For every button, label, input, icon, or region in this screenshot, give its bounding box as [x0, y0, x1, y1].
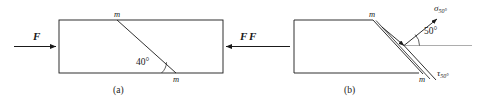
mechanics-figure: F F m m 40° (a) F m m 50° σ50° τ50° (b) [0, 0, 477, 107]
section-label-top-a: m [114, 10, 120, 19]
caption-a: (a) [113, 86, 124, 96]
angle-label-a: 40° [136, 58, 149, 68]
section-label-bottom-b: m [419, 75, 425, 84]
force-label-left-b: F [249, 31, 256, 42]
cut-plane-line-b [373, 20, 423, 74]
shear-stress-subscript: 50° [440, 73, 448, 79]
normal-stress-label: σ50° [434, 4, 447, 13]
section-label-top-b: m [369, 10, 375, 19]
section-label-bottom-a: m [173, 75, 179, 84]
shear-stress-label: τ50° [437, 69, 449, 78]
force-label-right-a: F [240, 31, 247, 42]
normal-stress-subscript: 50° [438, 8, 446, 14]
stress-resultant-arrow-b [382, 27, 404, 46]
force-label-left-a: F [33, 31, 40, 42]
angle-label-b: 50° [424, 27, 437, 37]
figure-vector-graphics [0, 0, 477, 107]
caption-b: (b) [344, 86, 355, 96]
